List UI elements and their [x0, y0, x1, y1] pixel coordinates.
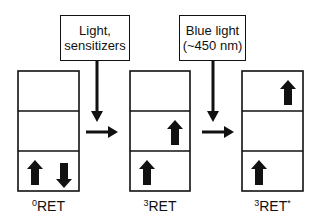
condition-line-2: (~450 nm) [183, 38, 243, 53]
ret-state-diagram: Light, sensitizers Blue light (~450 nm) … [0, 0, 316, 224]
transition-arrow-right-icon [224, 126, 234, 138]
energy-level-box [18, 71, 79, 191]
drop-arrow-head-icon [91, 111, 103, 122]
state-label-3RET: 3RET [125, 198, 195, 214]
condition-box-blue-light: Blue light (~450 nm) [179, 15, 246, 61]
transition-arrow-shaft [86, 131, 109, 134]
state-label-0RET: 0RET [14, 198, 84, 214]
drop-arrow-head-icon [207, 111, 219, 122]
label-main: RET [259, 198, 287, 214]
condition-box-light-sensitizers: Light, sensitizers [60, 15, 130, 61]
label-main: RET [37, 198, 65, 214]
state-label-3RET-star: 3RET* [238, 198, 308, 214]
energy-level-box [130, 71, 190, 191]
transition-arrow-right-icon [108, 126, 118, 138]
label-suffix: * [287, 198, 291, 208]
condition-line-1: Blue light [186, 23, 239, 38]
diagram-canvas [0, 0, 316, 224]
label-main: RET [149, 198, 177, 214]
drop-arrow-shaft [212, 61, 215, 112]
drop-arrow-shaft [96, 61, 99, 112]
condition-line-1: Light, [79, 23, 111, 38]
transition-arrow-shaft [202, 131, 225, 134]
condition-line-2: sensitizers [64, 38, 125, 53]
